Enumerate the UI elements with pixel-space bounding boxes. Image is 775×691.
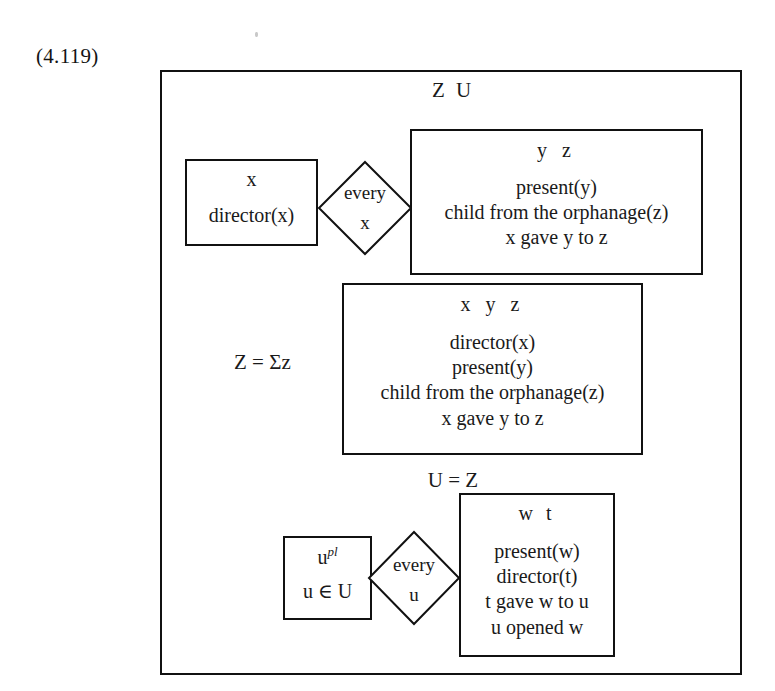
duplex-operator-every-x: every x bbox=[317, 160, 413, 256]
duplex-operator-every-u: every u bbox=[367, 530, 461, 626]
condition-item: x gave y to z bbox=[344, 406, 641, 431]
condition-item: t gave w to u bbox=[461, 589, 613, 614]
diamond-shape-icon bbox=[317, 160, 413, 256]
conditions-list: director(x) bbox=[187, 203, 316, 228]
universe-row: y z bbox=[412, 139, 701, 162]
operator-quantifier-label: every bbox=[317, 182, 413, 204]
universe-row: x y z bbox=[344, 293, 641, 316]
drs-box-director-x: x director(x) bbox=[185, 159, 318, 246]
drs-box-x-y-z: x y z director(x) present(y) child from … bbox=[342, 283, 643, 455]
equation-number: (4.119) bbox=[36, 44, 99, 69]
condition-item: child from the orphanage(z) bbox=[344, 380, 641, 405]
universe-row: w t bbox=[461, 502, 613, 525]
drs-box-y-z: y z present(y) child from the orphanage(… bbox=[410, 129, 703, 275]
operator-variable-label: x bbox=[317, 212, 413, 234]
outer-drs-box: Z U x director(x) every x y z present(y)… bbox=[160, 70, 742, 675]
conditions-list: u ∈ U bbox=[285, 579, 370, 604]
drs-box-u-plural: upl u ∈ U bbox=[283, 536, 372, 620]
condition-item: director(t) bbox=[461, 564, 613, 589]
operator-quantifier-label: every bbox=[367, 554, 461, 576]
conditions-list: present(w) director(t) t gave w to u u o… bbox=[461, 539, 613, 640]
label-z-equals-sigma-z: Z = Σz bbox=[234, 350, 291, 375]
scan-artifact-speck bbox=[255, 32, 258, 37]
condition-item: child from the orphanage(z) bbox=[412, 200, 701, 225]
condition-item: x gave y to z bbox=[412, 225, 701, 250]
condition-item: present(y) bbox=[412, 175, 701, 200]
diamond-shape-icon bbox=[367, 530, 461, 626]
condition-item: present(w) bbox=[461, 539, 613, 564]
condition-item: director(x) bbox=[344, 330, 641, 355]
universe-variable-base: u bbox=[317, 546, 327, 568]
universe-row: x bbox=[187, 168, 316, 191]
universe-variable-superscript: pl bbox=[327, 544, 337, 559]
drs-box-w-t: w t present(w) director(t) t gave w to u… bbox=[459, 493, 615, 657]
label-u-equals-z: U = Z bbox=[162, 468, 744, 493]
condition-item: u opened w bbox=[461, 615, 613, 640]
condition-item: director(x) bbox=[187, 203, 316, 228]
conditions-list: director(x) present(y) child from the or… bbox=[344, 330, 641, 431]
condition-item: present(y) bbox=[344, 355, 641, 380]
outer-drs-universe: Z U bbox=[162, 78, 744, 103]
conditions-list: present(y) child from the orphanage(z) x… bbox=[412, 175, 701, 251]
condition-item: u ∈ U bbox=[285, 579, 370, 604]
universe-row: upl bbox=[285, 544, 370, 569]
operator-variable-label: u bbox=[367, 584, 461, 606]
